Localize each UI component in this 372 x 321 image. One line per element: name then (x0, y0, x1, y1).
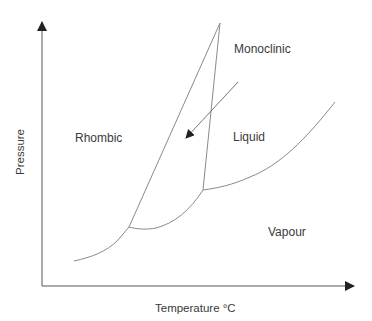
y-axis-label: Pressure (13, 129, 27, 175)
rhombic-monoclinic-boundary (129, 23, 220, 227)
region-label-vapour: Vapour (268, 225, 306, 239)
liquid-vapour-curve (203, 102, 335, 190)
rhombic-vapour-curve (74, 227, 129, 261)
monoclinic-vapour-curve (129, 190, 203, 229)
region-label-liquid: Liquid (233, 130, 265, 144)
x-axis-label: Temperature °C (155, 301, 236, 315)
region-label-rhombic: Rhombic (75, 131, 122, 145)
monoclinic-liquid-boundary (203, 23, 220, 190)
region-label-monoclinic: Monoclinic (234, 42, 291, 56)
phase-diagram (0, 0, 372, 321)
metastable-arrow (186, 82, 238, 138)
